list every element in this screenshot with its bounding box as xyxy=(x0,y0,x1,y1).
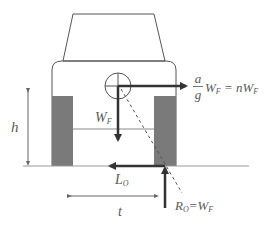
reaction-force-label: RO=WF xyxy=(175,199,213,214)
right-wheel xyxy=(154,96,176,166)
free-body-diagram xyxy=(0,0,271,226)
weight-label: WF xyxy=(95,111,112,126)
vehicle-cab xyxy=(63,14,165,61)
track-label: t xyxy=(118,205,122,219)
inertia-fraction: a g xyxy=(193,72,203,101)
lateral-force-label: LO xyxy=(115,173,129,188)
left-wheel xyxy=(52,96,73,166)
inertia-force-label: WF = nWF xyxy=(205,81,258,96)
height-label: h xyxy=(11,120,19,135)
